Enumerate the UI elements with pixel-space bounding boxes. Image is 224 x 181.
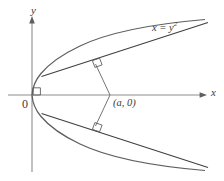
right-angle-marker-origin: [33, 88, 40, 95]
normal-segment-upper: [96, 64, 111, 95]
parabola-upper-branch: [32, 20, 205, 96]
normal-segment-lower: [96, 95, 111, 126]
curve-equation-base: x = y: [152, 22, 174, 33]
parabola-normal-lines-figure: y x 0 (a, 0) x = y2: [0, 0, 224, 181]
y-axis-label: y: [31, 5, 36, 16]
curve-equation-exponent: 2: [174, 20, 178, 28]
point-a-zero-label: (a, 0): [113, 98, 136, 109]
curve-equation-label: x = y2: [152, 21, 177, 33]
x-axis-label: x: [211, 87, 216, 98]
origin-label: 0: [22, 98, 28, 110]
x-axis-arrowhead: [200, 92, 207, 98]
figure-canvas: [0, 0, 224, 181]
y-axis-arrowhead: [29, 16, 35, 23]
